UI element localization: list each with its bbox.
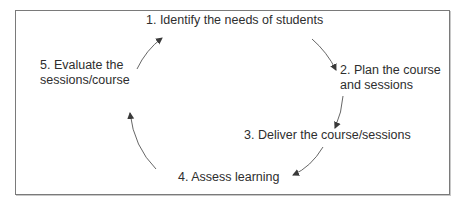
step-4-text: 4. Assess learning xyxy=(178,170,279,185)
arrow-5-to-1 xyxy=(137,38,162,69)
step-3-deliver-course: 3. Deliver the course/sessions xyxy=(244,128,411,143)
arrow-2-to-3 xyxy=(335,96,343,128)
step-1-identify-needs: 1. Identify the needs of students xyxy=(146,13,323,28)
step-4-assess-learning: 4. Assess learning xyxy=(178,170,279,185)
step-1-text: 1. Identify the needs of students xyxy=(146,13,323,28)
step-3-text: 3. Deliver the course/sessions xyxy=(244,128,411,143)
arrow-3-to-4 xyxy=(293,147,323,175)
step-5-text-line-2: sessions/course xyxy=(40,73,130,88)
step-5-text-line-1: 5. Evaluate the xyxy=(40,58,130,73)
step-2-text-line-1: 2. Plan the course xyxy=(340,63,441,78)
step-2-plan-course: 2. Plan the course and sessions xyxy=(340,63,441,93)
arrow-1-to-2 xyxy=(312,39,336,70)
step-2-text-line-2: and sessions xyxy=(340,78,441,93)
step-5-evaluate: 5. Evaluate the sessions/course xyxy=(40,58,130,88)
arrow-4-to-5 xyxy=(130,113,156,169)
